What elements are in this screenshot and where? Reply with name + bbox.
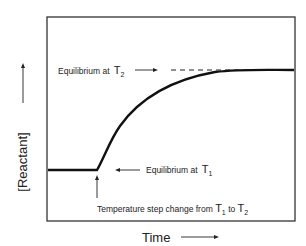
arrow-right-icon	[135, 68, 158, 72]
y-axis-label: [Reactant]	[15, 132, 30, 191]
arrow-left-icon	[115, 168, 140, 172]
reactant-curve	[48, 70, 294, 170]
plot-frame	[47, 17, 295, 221]
equilibrium-t1-label: Equilibrium at T1	[146, 163, 213, 177]
x-axis-arrow-icon	[181, 235, 219, 239]
kinetics-diagram: Equilibrium at T2 Equilibrium at T1 Temp…	[0, 0, 306, 246]
equilibrium-t2-label: Equilibrium at T2	[58, 64, 125, 78]
y-axis-arrow-icon	[21, 63, 25, 103]
arrow-up-icon	[95, 175, 99, 198]
temperature-step-label: Temperature step change from T1 to T2	[97, 202, 248, 216]
x-axis-label: Time	[142, 230, 170, 245]
